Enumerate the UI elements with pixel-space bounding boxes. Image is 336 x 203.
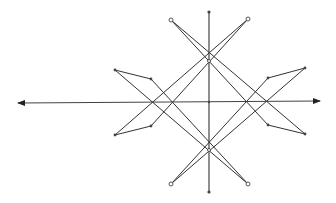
side-point-right-inner-top xyxy=(267,77,270,80)
construction-line xyxy=(171,68,305,184)
axis-end-dot xyxy=(207,190,210,193)
side-point-left-outer-top xyxy=(114,69,117,72)
side-point-right-inner-bottom xyxy=(267,124,270,127)
corner-circle-top-right xyxy=(246,17,250,21)
corner-circle-top-left xyxy=(169,18,173,22)
center-point xyxy=(208,101,210,103)
corner-circle-bottom-right xyxy=(246,182,250,186)
side-point-left-inner-bottom xyxy=(150,125,153,128)
construction-line xyxy=(171,20,268,125)
construction-line xyxy=(115,19,248,135)
construction-line xyxy=(171,20,305,134)
side-point-left-inner-top xyxy=(150,78,153,81)
axis-point xyxy=(208,149,211,152)
horizontal-axis-arrow xyxy=(18,101,320,103)
axis-end-dot xyxy=(207,10,210,13)
star-diagram xyxy=(0,0,336,203)
side-point-left-outer-bottom xyxy=(114,134,117,137)
construction-line xyxy=(115,70,248,184)
side-point-right-outer-bottom xyxy=(304,133,307,136)
side-point-right-outer-top xyxy=(304,67,307,70)
axis-point xyxy=(208,60,211,63)
construction-line xyxy=(151,79,248,184)
corner-circle-bottom-left xyxy=(169,182,173,186)
